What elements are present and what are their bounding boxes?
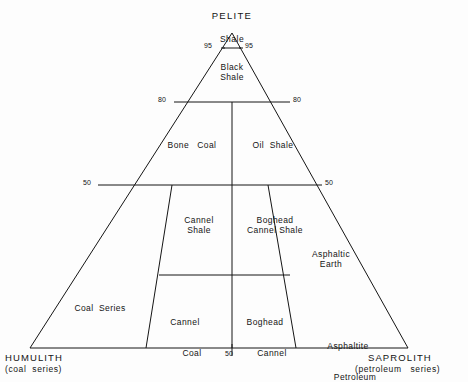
tick-label-50-base: 50: [225, 350, 233, 359]
tick-label-95-left: 95: [204, 42, 212, 51]
field-label-cannel-coal-line1: Cannel: [158, 317, 212, 327]
tick-label-80-right: 80: [293, 96, 301, 105]
field-label-cannel-coal-line2: Coal: [158, 348, 212, 358]
field-label-oil-shale: Oil Shale: [238, 140, 308, 150]
tick-label-50-left: 50: [83, 179, 91, 188]
corner-sublabel-humulith: (coal series): [5, 364, 105, 374]
corner-sublabel-saprolith: (petroleum series): [355, 364, 467, 374]
corner-label-humulith: HUMULITH: [5, 352, 99, 364]
ternary-diagram: PELITE Shale 95 95 80 80 50 50 50 Black …: [0, 0, 468, 382]
tick-label-80-left: 80: [158, 96, 166, 105]
tick-label-95-right: 95: [245, 42, 253, 51]
field-label-coal-series: Coal Series: [62, 303, 138, 313]
apex-label-pelite: PELITE: [182, 10, 282, 22]
tick-label-50-right: 50: [325, 179, 333, 188]
field-label-asphaltite-line1: Asphaltite: [316, 341, 380, 351]
field-label-asphaltic-earth: Asphaltic Earth: [300, 249, 362, 270]
field-label-boghead-cannel-line1: Boghead: [234, 317, 296, 327]
corner-label-saprolith: SAPROLITH: [368, 352, 464, 364]
field-label-boghead-cannel: Boghead Cannel: [234, 296, 296, 379]
field-label-black-shale: Black Shale: [200, 62, 264, 83]
field-label-bone-coal: Bone Coal: [157, 140, 227, 150]
field-label-cannel-shale: Cannel Shale: [170, 215, 228, 236]
field-label-boghead-cannel-shale: Boghead Cannel Shale: [232, 215, 318, 236]
field-label-cannel-coal: Cannel Coal: [158, 296, 212, 379]
field-label-boghead-cannel-line2: Cannel: [234, 348, 296, 358]
